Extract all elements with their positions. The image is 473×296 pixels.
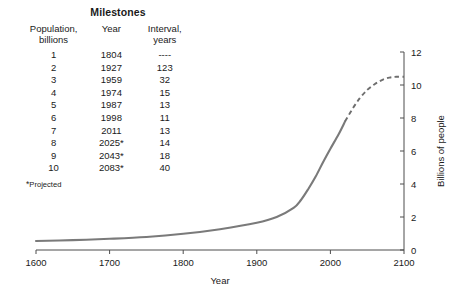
y-axis-tick-label: 4 xyxy=(411,179,416,190)
y-axis-tick-label: 2 xyxy=(411,212,416,223)
y-axis-tick-label: 8 xyxy=(411,113,416,124)
y-axis-tick-label: 0 xyxy=(411,245,416,256)
x-axis-tick-label: 2000 xyxy=(320,257,341,268)
historical-curve xyxy=(36,121,345,241)
y-axis-tick-label: 10 xyxy=(411,80,422,91)
y-axis-tick-label: 6 xyxy=(411,146,416,157)
population-growth-figure: Milestones Population, billions Year Int… xyxy=(0,0,473,296)
projected-curve xyxy=(345,77,404,122)
x-axis-tick-label: 1900 xyxy=(246,257,267,268)
population-chart: 160017001800190020002100 024681012 Year … xyxy=(0,0,473,296)
y-axis-tick-label: 12 xyxy=(411,47,422,58)
x-axis-tick-label: 1600 xyxy=(25,257,46,268)
x-axis-tick-label: 1700 xyxy=(99,257,120,268)
chart-svg: 160017001800190020002100 024681012 Year … xyxy=(0,0,473,296)
chart-series-group xyxy=(36,77,404,241)
y-axis-label: Billions of people xyxy=(435,115,446,187)
x-axis-label: Year xyxy=(210,275,229,286)
y-axis: 024681012 xyxy=(400,47,422,256)
x-axis: 160017001800190020002100 xyxy=(25,250,414,268)
x-axis-tick-label: 1800 xyxy=(173,257,194,268)
x-axis-tick-label: 2100 xyxy=(393,257,414,268)
